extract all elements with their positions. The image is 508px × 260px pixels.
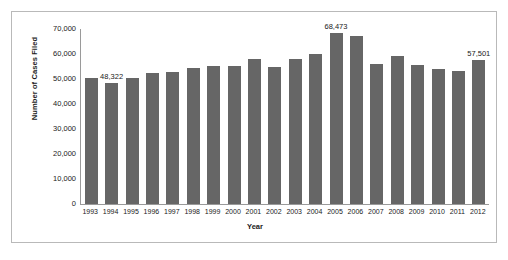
bar — [309, 54, 322, 205]
y-axis-tick: 40,000 — [28, 100, 76, 108]
bar — [411, 65, 424, 205]
bar-value-label: 68,473 — [314, 22, 358, 31]
bar — [452, 71, 465, 204]
x-axis-title: Year — [12, 222, 498, 231]
y-axis-tick-labels: 70,00060,00050,00040,00030,00020,00010,0… — [28, 18, 76, 214]
x-axis-tick: 1999 — [203, 207, 223, 216]
bars-layer: 48,32268,47357,501 — [81, 29, 489, 204]
x-axis-tick: 2011 — [447, 207, 467, 216]
x-axis-tick-labels: 1993199419951996199719981999200020012002… — [80, 207, 490, 221]
x-axis-tick: 2001 — [243, 207, 263, 216]
y-axis-tick: 50,000 — [28, 75, 76, 83]
x-axis-tick: 2003 — [284, 207, 304, 216]
bar-value-label: 57,501 — [457, 49, 501, 58]
y-axis-tick: 10,000 — [28, 175, 76, 183]
bar — [472, 60, 485, 204]
bar — [370, 64, 383, 205]
y-axis-tick: 70,000 — [28, 25, 76, 33]
bar — [85, 78, 98, 204]
x-axis-tick: 1993 — [80, 207, 100, 216]
bar — [166, 72, 179, 204]
bar — [248, 59, 261, 204]
x-axis-tick: 2006 — [345, 207, 365, 216]
bar — [289, 59, 302, 205]
bar — [187, 68, 200, 204]
chart-frame: Number of Cases Filed 70,00060,00050,000… — [11, 11, 497, 243]
bar — [105, 83, 118, 204]
x-axis-tick: 2010 — [427, 207, 447, 216]
x-axis-tick: 1995 — [121, 207, 141, 216]
bar — [126, 78, 139, 204]
y-axis-tick: 0 — [28, 200, 76, 208]
bar — [432, 69, 445, 205]
plot-area: 48,32268,47357,501 — [80, 29, 489, 205]
x-axis-tick: 2000 — [223, 207, 243, 216]
bar — [146, 73, 159, 204]
bar — [391, 56, 404, 204]
x-axis-tick: 2009 — [407, 207, 427, 216]
bar — [330, 33, 343, 204]
y-axis-tick: 30,000 — [28, 125, 76, 133]
x-axis-tick: 2005 — [325, 207, 345, 216]
bar — [350, 36, 363, 204]
x-axis-tick: 2008 — [386, 207, 406, 216]
x-axis-tick: 2004 — [305, 207, 325, 216]
x-axis-tick: 2007 — [366, 207, 386, 216]
x-axis-tick: 2002 — [264, 207, 284, 216]
bar-value-label: 48,322 — [90, 72, 134, 81]
bar — [207, 66, 220, 204]
x-axis-tick: 1994 — [101, 207, 121, 216]
x-axis-tick: 2012 — [468, 207, 488, 216]
x-axis-tick: 1998 — [182, 207, 202, 216]
x-axis-tick: 1996 — [141, 207, 161, 216]
x-axis-tick: 1997 — [162, 207, 182, 216]
bar — [268, 67, 281, 204]
bar — [228, 66, 241, 204]
y-axis-tick: 20,000 — [28, 150, 76, 158]
y-axis-tick: 60,000 — [28, 50, 76, 58]
